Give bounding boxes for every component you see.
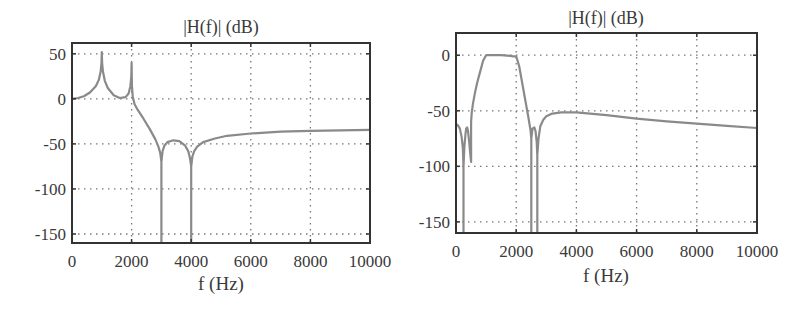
x-tick-label: 6000	[234, 252, 268, 271]
plot-frame	[456, 33, 757, 233]
x-tick-label: 4000	[559, 242, 593, 261]
y-tick-label: -150	[419, 213, 450, 232]
grid-lines	[72, 43, 370, 243]
x-tick-label: 8000	[680, 242, 714, 261]
x-tick-label: 0	[452, 242, 461, 261]
x-tick-label: 10000	[349, 252, 392, 271]
y-tick-label: -50	[43, 135, 66, 154]
x-tick-label: 0	[68, 252, 77, 271]
chart-left-magnitude-response: |H(f)| (dB) 500-50-100-150 0200040006000…	[35, 17, 391, 295]
y-tick-label: -100	[419, 157, 450, 176]
x-tick-label: 2000	[115, 252, 149, 271]
y-tick-label: -150	[35, 225, 66, 244]
tick-marks	[72, 43, 370, 243]
y-tick-labels: 500-50-100-150	[35, 45, 66, 244]
y-tick-labels: 0-50-100-150	[419, 46, 450, 232]
series-line	[72, 52, 370, 243]
magnitude-curve	[456, 55, 757, 233]
y-tick-label: 0	[58, 90, 67, 109]
x-axis-label: f (Hz)	[198, 273, 244, 295]
x-tick-label: 2000	[499, 242, 533, 261]
x-tick-label: 10000	[736, 242, 779, 261]
y-tick-label: 50	[49, 45, 66, 64]
chart-right-magnitude-response: |H(f)| (dB) 0-50-100-150 020004000600080…	[419, 8, 778, 287]
y-tick-label: -100	[35, 180, 66, 199]
chart-title: |H(f)| (dB)	[183, 17, 259, 38]
grid-lines	[456, 33, 757, 233]
x-tick-labels: 0200040006000800010000	[452, 242, 779, 261]
x-axis-label: f (Hz)	[583, 265, 629, 287]
y-tick-label: 0	[442, 46, 451, 65]
magnitude-curve	[72, 52, 370, 243]
figure-canvas: |H(f)| (dB) 500-50-100-150 0200040006000…	[0, 0, 810, 309]
tick-marks	[456, 33, 757, 233]
series-line	[456, 55, 757, 233]
x-tick-labels: 0200040006000800010000	[68, 252, 392, 271]
plot-frame	[72, 43, 370, 243]
x-tick-label: 8000	[293, 252, 327, 271]
chart-title: |H(f)| (dB)	[568, 8, 644, 29]
x-tick-label: 6000	[620, 242, 654, 261]
x-tick-label: 4000	[174, 252, 208, 271]
y-tick-label: -50	[427, 102, 450, 121]
